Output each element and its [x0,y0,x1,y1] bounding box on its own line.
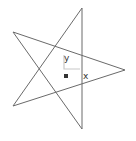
edge-lefttop-to-right [13,32,125,70]
edge-lefttop-to-bottom [13,32,82,129]
edge-top-to-leftbottom [13,8,82,106]
label-y: y [64,53,70,63]
label-x: x [83,71,89,81]
point-marker [64,74,68,78]
edge-leftbottom-to-right [13,70,125,106]
diagram-canvas: y x [0,0,136,141]
pentagram-figure: y x [0,0,136,141]
